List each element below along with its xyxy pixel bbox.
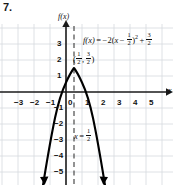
curve-arrow-right — [100, 176, 108, 185]
problem-number: 7. — [3, 0, 12, 14]
curve-arrow-left — [40, 176, 48, 185]
grid-lines — [0, 24, 173, 185]
graph-canvas — [0, 18, 173, 185]
coordinate-graph: f(x) x −3 −2 −1 0 1 2 3 4 5 3 2 1 −1 −2 … — [0, 18, 173, 185]
figure-root: 7. — [0, 0, 173, 185]
y-axis — [62, 20, 69, 185]
